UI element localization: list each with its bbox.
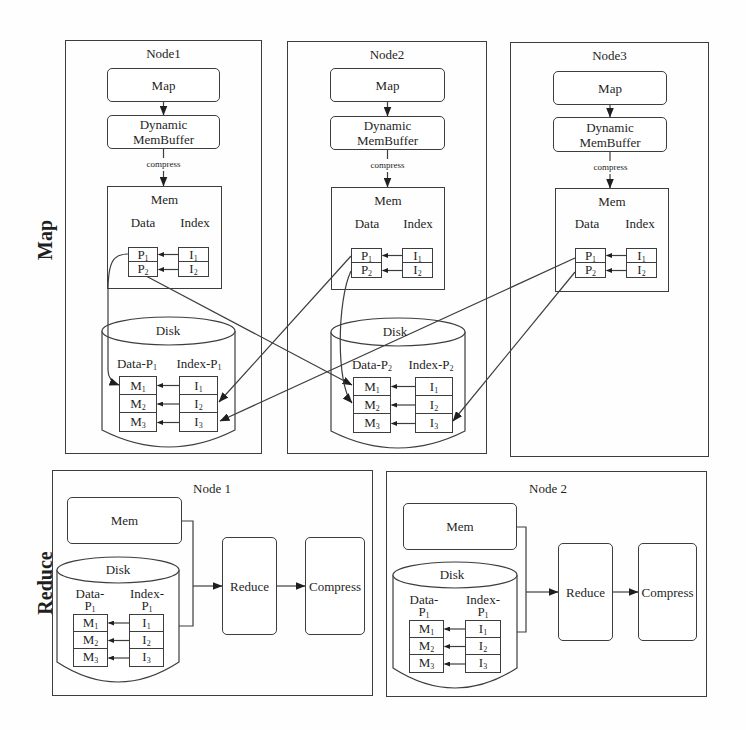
index-cell: I1 <box>415 377 453 396</box>
node-title: Node3 <box>510 48 709 63</box>
index-cell: I2 <box>415 396 453 414</box>
index-cell: I1 <box>178 247 209 262</box>
map-box: Map <box>107 68 220 102</box>
compress-label: compress <box>347 160 428 170</box>
disk-index-table: I1 I2 I3 <box>415 377 453 433</box>
disk-data-label: Data- P1 <box>65 588 115 612</box>
index-cell: I2 <box>179 395 218 413</box>
disk-data-label: Data-P1 <box>106 356 168 371</box>
reduce-mem-box: Mem <box>67 497 182 544</box>
map-label: Map <box>376 78 400 93</box>
mem-data-label: Data <box>121 215 165 230</box>
buffer-line1: Dynamic <box>364 118 412 133</box>
disk-data-table: M1 M2 M3 <box>353 377 391 433</box>
index-cell: I2 <box>178 262 209 277</box>
disk-index-label: Index- P1 <box>120 588 174 612</box>
buffer-line1: Dynamic <box>586 120 634 135</box>
mem-data-table: P1 P2 <box>351 248 382 278</box>
node-title: Node2 <box>287 47 487 62</box>
mem-data-label: Data <box>565 216 609 231</box>
compress-box: Compress <box>638 543 697 641</box>
mem-index-table: I1 I2 <box>178 247 209 277</box>
index-cell: I1 <box>465 620 501 638</box>
disk-data-table: M1 M2 M3 <box>119 376 157 432</box>
mem-title: Mem <box>555 194 669 209</box>
reduce-mem-box: Mem <box>403 503 517 550</box>
disk-index-table: I1 I2 I3 <box>129 614 164 667</box>
buffer-line2: MemBuffer <box>357 133 418 148</box>
map-label: Map <box>598 81 622 96</box>
index-cell: I3 <box>179 413 218 432</box>
reduce-label: Reduce <box>230 579 269 594</box>
compress-box: Compress <box>305 537 365 635</box>
disk-title: Disk <box>138 323 198 338</box>
data-cell: M2 <box>119 395 157 413</box>
mem-index-table: I1 I2 <box>626 248 657 278</box>
partition-cell: P1 <box>128 247 158 262</box>
mem-data-label: Data <box>345 216 389 231</box>
partition-cell: P2 <box>351 263 382 278</box>
data-cell: M1 <box>409 620 444 638</box>
mem-index-table: I1 I2 <box>402 248 433 278</box>
partition-cell: P1 <box>351 248 382 263</box>
mem-label: Mem <box>446 519 473 534</box>
buffer-line1: Dynamic <box>140 117 188 132</box>
buffer-line2: MemBuffer <box>133 132 194 147</box>
partition-cell: P1 <box>575 248 606 263</box>
index-cell: I2 <box>402 263 433 278</box>
disk-title: Disk <box>422 567 482 582</box>
index-cell: I3 <box>415 414 453 433</box>
reduce-box: Reduce <box>558 543 613 641</box>
mem-index-label: Index <box>396 216 440 231</box>
mapreduce-diagram: Map Reduce Node1 Map Dynamic MemBuffer c… <box>0 0 746 730</box>
dynamic-membuffer-box: Dynamic MemBuffer <box>107 115 220 149</box>
map-box: Map <box>330 68 445 102</box>
buffer-line2: MemBuffer <box>579 135 640 150</box>
disk-title: Disk <box>88 562 148 577</box>
disk-data-label: Data- P1 <box>399 594 449 618</box>
index-cell: I2 <box>465 638 501 655</box>
reduce-box: Reduce <box>222 537 277 635</box>
data-cell: M2 <box>73 632 108 649</box>
compress-label: compress <box>570 162 651 172</box>
dynamic-membuffer-box: Dynamic MemBuffer <box>553 117 667 152</box>
data-cell: M3 <box>409 655 444 673</box>
index-cell: I1 <box>626 248 657 263</box>
index-cell: I3 <box>465 655 501 673</box>
data-cell: M3 <box>353 414 391 433</box>
disk-index-label: Index-P1 <box>166 356 232 371</box>
disk-data-label: Data-P2 <box>340 357 404 372</box>
compress-label: compress <box>123 159 204 169</box>
data-cell: M2 <box>353 396 391 414</box>
index-cell: I2 <box>129 632 164 649</box>
node-title: Node1 <box>65 46 262 61</box>
mem-index-label: Index <box>618 216 662 231</box>
mem-label: Mem <box>111 513 138 528</box>
map-box: Map <box>553 71 667 105</box>
partition-cell: P2 <box>575 263 606 278</box>
index-cell: I1 <box>402 248 433 263</box>
data-cell: M2 <box>409 638 444 655</box>
data-cell: M3 <box>73 649 108 667</box>
disk-index-table: I1 I2 I3 <box>465 620 501 673</box>
partition-cell: P2 <box>128 262 158 277</box>
map-phase-label: Map <box>33 210 57 270</box>
reduce-label: Reduce <box>566 585 605 600</box>
mem-data-table: P1 P2 <box>128 247 158 277</box>
index-cell: I3 <box>129 649 164 667</box>
map-label: Map <box>152 78 176 93</box>
disk-data-table: M1 M2 M3 <box>409 620 444 673</box>
data-cell: M3 <box>119 413 157 432</box>
disk-index-table: I1 I2 I3 <box>179 376 218 432</box>
mem-data-table: P1 P2 <box>575 248 606 278</box>
compress-label: Compress <box>642 585 694 600</box>
disk-data-table: M1 M2 M3 <box>73 614 108 667</box>
data-cell: M1 <box>73 614 108 632</box>
index-cell: I1 <box>129 614 164 632</box>
dynamic-membuffer-box: Dynamic MemBuffer <box>330 116 445 150</box>
disk-title: Disk <box>365 324 425 339</box>
disk-index-label: Index- P1 <box>456 594 510 618</box>
disk-index-label: Index-P2 <box>398 357 464 372</box>
mem-index-label: Index <box>173 215 217 230</box>
data-cell: M1 <box>353 377 391 396</box>
